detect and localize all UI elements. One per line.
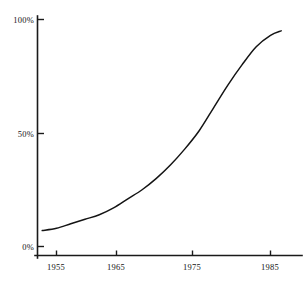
y-tick-label-0: 0% bbox=[22, 242, 34, 252]
series-line-adoption bbox=[42, 31, 281, 231]
x-tick-label-1965: 1965 bbox=[107, 262, 125, 272]
chart-figure: 100% 50% 0% 1955 1965 1975 1985 bbox=[0, 0, 304, 282]
x-tick-label-1955: 1955 bbox=[47, 262, 65, 272]
x-tick-label-1985: 1985 bbox=[261, 262, 279, 272]
y-tick-label-50: 50% bbox=[18, 129, 34, 139]
y-tick-label-100: 100% bbox=[13, 15, 34, 25]
chart-plot-area: 100% 50% 0% 1955 1965 1975 1985 bbox=[0, 0, 304, 282]
x-tick-label-1975: 1975 bbox=[183, 262, 201, 272]
